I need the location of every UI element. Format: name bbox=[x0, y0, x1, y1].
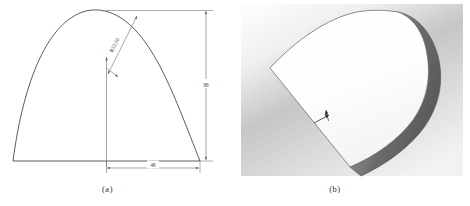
dimension-height: 88 bbox=[106, 11, 213, 162]
dimension-radius: R52.50 bbox=[108, 16, 137, 74]
dimension-height-label: 88 bbox=[203, 82, 209, 88]
panel-2d-drawing: R52.50 88 48 bbox=[0, 0, 235, 206]
caption-a: (a) bbox=[0, 184, 215, 194]
dimension-radius-label: R52.50 bbox=[108, 37, 120, 54]
dimension-width-label: 48 bbox=[150, 162, 156, 168]
caption-b: (b) bbox=[235, 184, 435, 194]
dimension-width: 48 bbox=[107, 161, 201, 174]
panel-3d-render bbox=[235, 0, 470, 206]
figure-container: R52.50 88 48 bbox=[0, 0, 470, 206]
